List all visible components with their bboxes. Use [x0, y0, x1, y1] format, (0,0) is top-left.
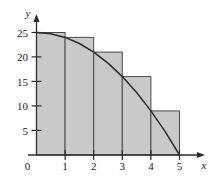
y-axis-label: y: [25, 7, 31, 19]
bar-2: [94, 52, 123, 155]
x-tick-label-5: 5: [177, 160, 183, 172]
chart-plot-area: 5 10 15 20 25 0 1 2 3 4 5 y x: [0, 0, 217, 177]
x-tick-label-1: 1: [62, 160, 68, 172]
y-tick-label-10: 10: [17, 100, 29, 112]
y-tick-label-20: 20: [17, 51, 29, 63]
x-tick-label-2: 2: [91, 160, 97, 172]
bar-3: [122, 77, 151, 155]
y-tick-labels: 5 10 15 20 25: [17, 27, 29, 137]
y-tick-label-5: 5: [23, 125, 29, 137]
bar-1: [65, 37, 94, 155]
riemann-sum-figure: 5 10 15 20 25 0 1 2 3 4 5 y x: [0, 0, 217, 177]
x-tick-label-0: 0: [25, 160, 31, 172]
x-tick-label-3: 3: [120, 160, 126, 172]
bars-group: [37, 33, 180, 156]
x-tick-labels: 0 1 2 3 4 5: [25, 160, 183, 172]
bar-0: [37, 33, 66, 156]
x-axis-label: x: [201, 159, 207, 171]
y-tick-label-25: 25: [17, 27, 29, 39]
y-tick-label-15: 15: [17, 76, 29, 88]
x-tick-label-4: 4: [148, 160, 154, 172]
